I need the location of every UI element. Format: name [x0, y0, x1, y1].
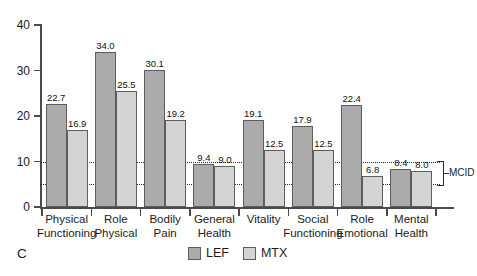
bar-value-label: 22.7	[42, 93, 70, 103]
bar-mtx	[313, 150, 334, 207]
y-axis-tick	[34, 24, 42, 26]
x-axis-line	[40, 207, 454, 209]
bar-mtx	[264, 150, 285, 207]
y-axis-tick	[34, 206, 42, 208]
legend-item-lef: LEF	[188, 246, 229, 260]
chart-legend: LEF MTX	[188, 246, 287, 260]
bar-lef	[243, 120, 264, 207]
y-axis-line	[40, 25, 42, 209]
legend-item-mtx: MTX	[243, 246, 287, 260]
legend-label-mtx: MTX	[261, 246, 287, 260]
panel-letter: C	[17, 246, 27, 261]
y-axis-tick-label: 20	[0, 110, 30, 122]
legend-label-lef: LEF	[206, 246, 229, 260]
bar-mtx	[67, 130, 88, 207]
bar-value-label: 6.8	[359, 165, 387, 175]
legend-swatch-mtx-icon	[243, 247, 256, 260]
category-label-line: Health	[174, 227, 254, 241]
bar-value-label: 19.2	[162, 109, 190, 119]
bar-value-label: 17.9	[288, 115, 316, 125]
y-axis-tick-label: 40	[0, 19, 30, 31]
bar-value-label: 9.0	[211, 155, 239, 165]
bar-lef	[292, 126, 313, 207]
legend-swatch-lef-icon	[188, 247, 201, 260]
bar-mtx	[165, 120, 186, 207]
bar-lef	[341, 105, 362, 207]
chart-figure: 010203040 22.716.934.025.530.119.29.49.0…	[0, 0, 477, 276]
bar-value-label: 12.5	[260, 139, 288, 149]
bar-mtx	[362, 176, 383, 207]
y-axis-tick	[34, 115, 42, 117]
bar-lef	[193, 164, 214, 207]
bar-value-label: 34.0	[91, 41, 119, 51]
bar-value-label: 25.5	[112, 80, 140, 90]
category-label-line: Mental	[371, 213, 451, 227]
bar-lef	[390, 169, 411, 207]
x-axis-category-label: MentalHealth	[371, 213, 451, 240]
bar-value-label: 30.1	[141, 59, 169, 69]
bar-value-label: 22.4	[338, 94, 366, 104]
bar-value-label: 16.9	[63, 119, 91, 129]
y-axis-tick-label: 30	[0, 65, 30, 77]
y-axis-tick	[34, 70, 42, 72]
bar-value-label: 8.0	[408, 160, 436, 170]
bar-lef	[144, 70, 165, 207]
bar-mtx	[214, 166, 235, 207]
category-label-line: Health	[371, 227, 451, 241]
mcid-label: MCID	[449, 167, 475, 178]
bar-mtx	[411, 171, 432, 207]
bar-mtx	[116, 91, 137, 207]
bar-value-label: 19.1	[239, 109, 267, 119]
bar-value-label: 12.5	[309, 139, 337, 149]
y-axis-tick-label: 0	[0, 201, 30, 213]
y-axis-tick-label: 10	[0, 156, 30, 168]
bar-lef	[95, 52, 116, 207]
mcid-bracket	[437, 161, 444, 186]
